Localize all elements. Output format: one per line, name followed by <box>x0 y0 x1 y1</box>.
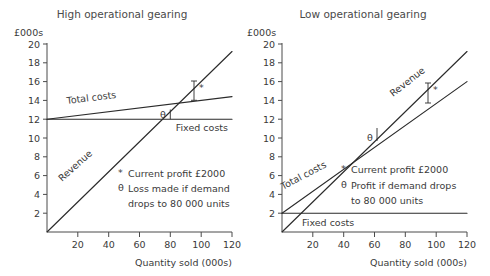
y-tick-2: 2 <box>269 208 275 219</box>
figure-container: High operational gearing £000s 20 18 16 … <box>0 0 490 276</box>
profit-star-symbol-right: * <box>433 84 438 95</box>
y-tick-8: 8 <box>269 151 275 162</box>
y-tick-10: 10 <box>263 133 275 144</box>
note-profit-right: Current profit £2000 <box>351 164 448 175</box>
total-costs-label-right: Total costs <box>278 159 328 193</box>
y-tick-6: 6 <box>34 170 40 181</box>
revenue-label-left: Revenue <box>56 148 94 184</box>
x-tick-100: 100 <box>192 239 210 250</box>
note-profit-line1-right: Profit if demand drops <box>351 180 456 191</box>
y-tick-20: 20 <box>263 39 275 50</box>
y-tick-10: 10 <box>28 133 40 144</box>
note-loss-line1-left: Loss made if demand <box>128 183 230 194</box>
chart-title-low-gearing: Low operational gearing <box>299 8 426 20</box>
total-costs-label-left: Total costs <box>65 89 117 106</box>
y-tick-14: 14 <box>263 95 275 106</box>
x-tick-120: 120 <box>458 239 476 250</box>
y-tick-4: 4 <box>269 189 275 200</box>
theta-symbol-right: θ <box>367 132 373 143</box>
y-tick-12: 12 <box>263 114 275 125</box>
chart-panel-high-gearing: High operational gearing £000s 20 18 16 … <box>0 0 245 276</box>
y-tick-16: 16 <box>263 76 275 87</box>
x-tick-40: 40 <box>338 239 350 250</box>
y-axis-unit-label-right: £000s <box>247 27 276 38</box>
y-tick-18: 18 <box>28 57 40 68</box>
y-tick-6: 6 <box>269 170 275 181</box>
theta-symbol-left: θ <box>160 109 166 120</box>
note-profit-left: Current profit £2000 <box>128 168 225 179</box>
x-tick-20: 20 <box>307 239 319 250</box>
note-star-symbol-left: * <box>118 167 123 178</box>
y-tick-4: 4 <box>34 189 40 200</box>
x-axis-ticks-right: 20 40 60 80 100 120 <box>307 232 476 250</box>
note-theta-symbol-left: θ <box>118 182 124 193</box>
total-costs-line-right <box>282 82 467 214</box>
note-theta-symbol-right: θ <box>341 179 347 190</box>
x-tick-100: 100 <box>427 239 445 250</box>
x-tick-80: 80 <box>164 239 176 250</box>
x-tick-120: 120 <box>223 239 241 250</box>
profit-star-symbol-left: * <box>199 82 204 93</box>
revenue-label-right: Revenue <box>387 64 426 98</box>
x-tick-60: 60 <box>133 239 145 250</box>
chart-title-high-gearing: High operational gearing <box>57 8 188 20</box>
fixed-costs-label-left: Fixed costs <box>176 122 228 133</box>
chart-panel-low-gearing: Low operational gearing £000s 20 18 16 1… <box>245 0 490 276</box>
x-tick-20: 20 <box>72 239 84 250</box>
x-tick-60: 60 <box>368 239 380 250</box>
x-axis-label-right: Quantity sold (000s) <box>370 257 467 268</box>
y-tick-2: 2 <box>34 208 40 219</box>
fixed-costs-label-right: Fixed costs <box>302 217 354 228</box>
y-tick-12: 12 <box>28 114 40 125</box>
y-axis-ticks-right: 20 18 16 14 12 10 8 6 4 2 <box>263 39 282 219</box>
y-tick-14: 14 <box>28 95 40 106</box>
x-tick-40: 40 <box>103 239 115 250</box>
y-tick-20: 20 <box>28 39 40 50</box>
x-axis-label-left: Quantity sold (000s) <box>135 257 232 268</box>
note-profit-line2-right: to 80 000 units <box>351 195 423 206</box>
x-tick-80: 80 <box>399 239 411 250</box>
chart-svg-high-gearing: High operational gearing £000s 20 18 16 … <box>0 0 245 276</box>
profit-gap-marker-right <box>425 83 431 103</box>
y-axis-ticks-left: 20 18 16 14 12 10 8 6 4 2 <box>28 39 47 219</box>
note-loss-line2-left: drops to 80 000 units <box>128 198 230 209</box>
x-axis-ticks-left: 20 40 60 80 100 120 <box>72 232 241 250</box>
chart-svg-low-gearing: Low operational gearing £000s 20 18 16 1… <box>245 0 490 276</box>
y-tick-18: 18 <box>263 57 275 68</box>
notes-block-left: * Current profit £2000 θ Loss made if de… <box>118 167 230 209</box>
note-star-symbol-right: * <box>341 163 346 174</box>
y-tick-8: 8 <box>34 151 40 162</box>
notes-block-right: * Current profit £2000 θ Profit if deman… <box>341 163 456 206</box>
y-tick-16: 16 <box>28 76 40 87</box>
y-axis-unit-label-left: £000s <box>14 27 43 38</box>
